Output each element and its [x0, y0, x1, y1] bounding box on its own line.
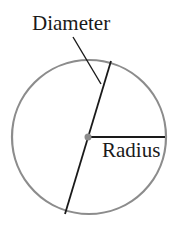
- center-point: [85, 134, 92, 141]
- radius-label: Radius: [102, 138, 160, 162]
- circle-diagram: Diameter Radius: [0, 0, 178, 233]
- diameter-label: Diameter: [32, 11, 110, 35]
